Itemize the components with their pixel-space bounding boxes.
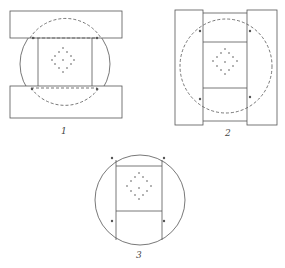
left-bar	[175, 10, 203, 125]
figure-3-label: 3	[136, 250, 142, 260]
dashed-circle	[180, 19, 272, 113]
figure-1	[10, 11, 122, 118]
figure-2-label: 2	[225, 128, 231, 138]
dot-diamond	[31, 37, 98, 90]
bottom-bar	[10, 86, 122, 118]
diagram-canvas	[0, 0, 285, 268]
solid-circle	[95, 155, 185, 245]
figure-3	[95, 155, 185, 245]
figure-2	[175, 10, 277, 125]
figure-1-label: 1	[61, 126, 67, 136]
top-bar	[10, 11, 122, 38]
